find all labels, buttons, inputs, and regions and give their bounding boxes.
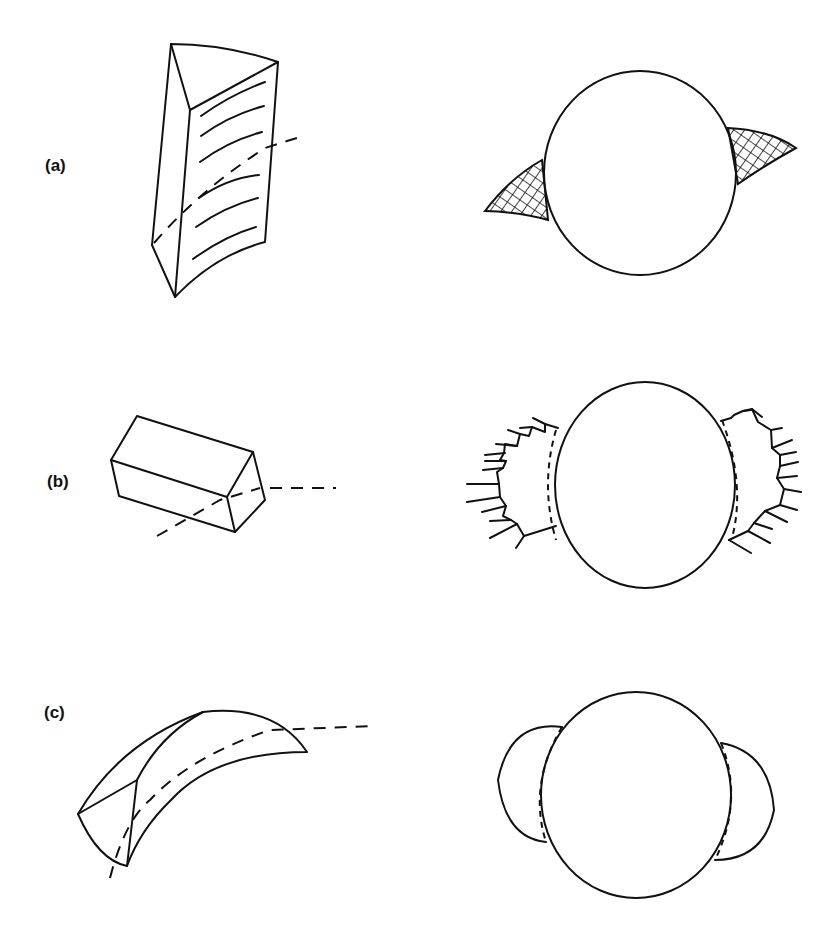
sphere-comb-b [467, 382, 801, 588]
box-b [111, 416, 336, 536]
prism-a [152, 44, 303, 297]
horn-c [78, 711, 375, 878]
figure-canvas [0, 0, 838, 938]
sphere-lobes-c [498, 692, 774, 898]
sphere-wings-a [485, 71, 796, 275]
